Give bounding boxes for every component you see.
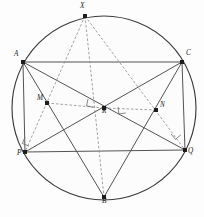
vertex-label-X: X <box>80 3 84 10</box>
vertex-dot-C <box>180 60 184 64</box>
vertex-dot-Q <box>183 148 187 152</box>
vertex-label-N: N <box>160 102 165 109</box>
vertex-dot-A <box>21 60 25 64</box>
vertex-label-P: P <box>17 150 21 157</box>
vertex-label-B: B <box>102 198 106 205</box>
vertex-label-A: A <box>14 51 18 58</box>
vertex-dot-M <box>45 101 49 105</box>
vertex-label-C: C <box>186 50 191 57</box>
vertex-dot-N <box>154 108 158 112</box>
vertex-label-R: R <box>102 108 106 115</box>
vertex-label-Q: Q <box>188 148 193 155</box>
vertex-dot-X <box>83 14 87 18</box>
geometry-figure: XACMRNPQB <box>0 0 204 217</box>
vertex-dot-P <box>23 150 27 154</box>
vertex-label-M: M <box>37 95 43 102</box>
